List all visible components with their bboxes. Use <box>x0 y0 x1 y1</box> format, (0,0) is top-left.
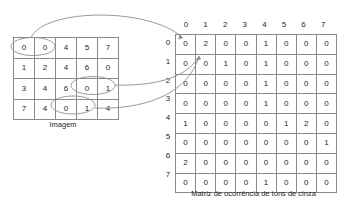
glcm-cell: 0 <box>216 94 236 114</box>
image-cell: 4 <box>56 38 77 59</box>
glcm-cell: 0 <box>296 74 316 94</box>
table-row: 3 4 6 0 1 <box>14 79 119 100</box>
glcm-cell: 0 <box>256 153 276 173</box>
image-cell: 4 <box>35 79 56 100</box>
glcm-row-header-4: 4 <box>162 114 174 122</box>
table-row: 0 0 0 0 1 0 0 0 <box>176 74 337 94</box>
glcm-cell: 0 <box>216 114 236 134</box>
image-matrix: 0 0 4 5 7 1 2 4 6 0 3 4 6 0 1 7 <box>13 37 119 120</box>
glcm-cell: 0 <box>216 74 236 94</box>
arrow-to-cell-0-0 <box>31 15 183 38</box>
image-cell: 0 <box>98 58 119 79</box>
glcm-row-header-5: 5 <box>162 133 174 141</box>
image-cell: 1 <box>14 58 35 79</box>
image-cell: 4 <box>35 99 56 120</box>
glcm-matrix: 0 2 0 0 1 0 0 0 0 0 1 0 1 0 0 0 0 0 <box>175 34 337 193</box>
glcm-cell: 0 <box>196 114 216 134</box>
image-cell: 0 <box>14 38 35 59</box>
glcm-cell: 1 <box>256 94 276 114</box>
table-row: 7 4 0 1 4 <box>14 99 119 120</box>
glcm-cell: 0 <box>256 114 276 134</box>
image-cell: 6 <box>77 58 98 79</box>
image-cell: 1 <box>98 79 119 100</box>
glcm-cell: 1 <box>276 114 296 134</box>
glcm-row-header-3: 3 <box>162 95 174 103</box>
glcm-cell: 0 <box>216 133 236 153</box>
glcm-cell: 0 <box>256 133 276 153</box>
image-cell: 0 <box>56 99 77 120</box>
glcm-cell: 0 <box>316 54 336 74</box>
image-cell: 0 <box>77 79 98 100</box>
glcm-cell: 0 <box>316 114 336 134</box>
glcm-cell: 1 <box>216 54 236 74</box>
glcm-col-header-1: 1 <box>200 21 212 29</box>
glcm-cell: 2 <box>176 153 196 173</box>
glcm-cell: 0 <box>236 54 256 74</box>
image-cell: 7 <box>98 38 119 59</box>
glcm-cell: 0 <box>316 94 336 114</box>
glcm-row-header-0: 0 <box>162 39 174 47</box>
glcm-cell: 1 <box>316 133 336 153</box>
glcm-cell: 2 <box>196 35 216 55</box>
glcm-col-header-5: 5 <box>278 21 290 29</box>
glcm-cell: 0 <box>236 94 256 114</box>
table-row: 0 0 4 5 7 <box>14 38 119 59</box>
glcm-col-header-6: 6 <box>298 21 310 29</box>
figure-canvas: 0 0 4 5 7 1 2 4 6 0 3 4 6 0 1 7 <box>0 0 337 205</box>
image-cell: 1 <box>77 99 98 120</box>
glcm-cell: 0 <box>276 94 296 114</box>
glcm-cell: 0 <box>176 54 196 74</box>
image-matrix-caption: Imagem <box>13 121 113 129</box>
glcm-cell: 0 <box>236 153 256 173</box>
glcm-cell: 0 <box>236 114 256 134</box>
glcm-cell: 0 <box>296 153 316 173</box>
glcm-cell: 0 <box>276 153 296 173</box>
table-row: 1 0 0 0 0 1 2 0 <box>176 114 337 134</box>
glcm-cell: 1 <box>256 35 276 55</box>
glcm-row-header-1: 1 <box>162 58 174 66</box>
glcm-cell: 0 <box>196 133 216 153</box>
glcm-cell: 0 <box>296 54 316 74</box>
image-cell: 4 <box>98 99 119 120</box>
table-row: 0 0 0 0 1 0 0 0 <box>176 94 337 114</box>
glcm-cell: 0 <box>316 153 336 173</box>
image-cell: 0 <box>35 38 56 59</box>
glcm-cell: 0 <box>236 74 256 94</box>
glcm-col-header-2: 2 <box>219 21 231 29</box>
glcm-cell: 0 <box>276 74 296 94</box>
glcm-cell: 1 <box>256 54 276 74</box>
table-row: 2 0 0 0 0 0 0 0 <box>176 153 337 173</box>
table-row: 0 2 0 0 1 0 0 0 <box>176 35 337 55</box>
glcm-cell: 0 <box>196 74 216 94</box>
glcm-cell: 0 <box>316 74 336 94</box>
image-cell: 3 <box>14 79 35 100</box>
glcm-cell: 1 <box>176 114 196 134</box>
glcm-cell: 2 <box>296 114 316 134</box>
table-row: 0 0 1 0 1 0 0 0 <box>176 54 337 74</box>
glcm-cell: 0 <box>296 35 316 55</box>
glcm-col-header-0: 0 <box>180 21 192 29</box>
glcm-cell: 0 <box>176 133 196 153</box>
image-matrix-body: 0 0 4 5 7 1 2 4 6 0 3 4 6 0 1 7 <box>14 38 119 120</box>
image-cell: 4 <box>56 58 77 79</box>
glcm-cell: 0 <box>296 133 316 153</box>
glcm-cell: 0 <box>176 94 196 114</box>
glcm-cell: 0 <box>216 153 236 173</box>
image-cell: 7 <box>14 99 35 120</box>
glcm-cell: 0 <box>276 54 296 74</box>
glcm-cell: 0 <box>196 54 216 74</box>
glcm-cell: 0 <box>236 133 256 153</box>
glcm-matrix-body: 0 2 0 0 1 0 0 0 0 0 1 0 1 0 0 0 0 0 <box>176 35 337 193</box>
glcm-cell: 0 <box>276 133 296 153</box>
glcm-cell: 0 <box>316 35 336 55</box>
glcm-row-header-2: 2 <box>162 77 174 85</box>
glcm-matrix-caption: Matriz de ocorrência de tons de cinza <box>175 190 332 198</box>
glcm-cell: 0 <box>196 94 216 114</box>
glcm-cell: 0 <box>276 35 296 55</box>
image-cell: 2 <box>35 58 56 79</box>
glcm-cell: 1 <box>256 74 276 94</box>
glcm-cell: 0 <box>296 94 316 114</box>
table-row: 1 2 4 6 0 <box>14 58 119 79</box>
image-cell: 5 <box>77 38 98 59</box>
glcm-cell: 0 <box>196 153 216 173</box>
